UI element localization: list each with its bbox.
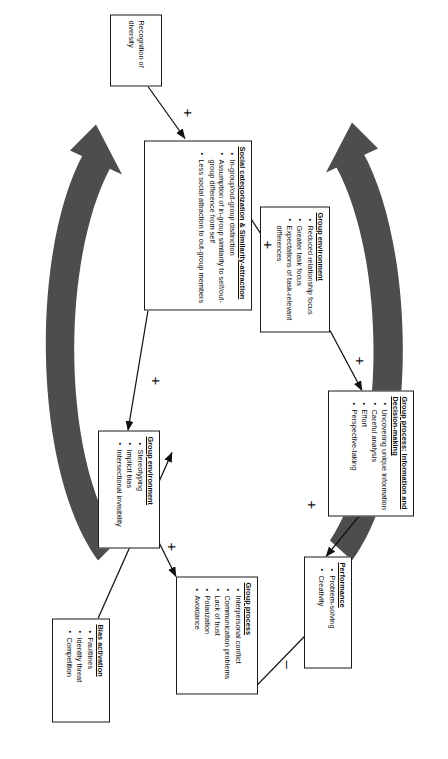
node-title: Group process [244, 582, 253, 688]
sign-socialcat-to-groupenv-negative: + [149, 376, 164, 385]
node-recognition-of-diversity[interactable]: Recognition of diversity [110, 14, 162, 86]
list-item: Competition [64, 632, 74, 716]
list-item: Creativity [317, 570, 327, 662]
list-item: Careful analysis [369, 404, 379, 510]
node-item-list: Reduced relationship focus Greater task … [275, 212, 315, 326]
sign-recognition-to-socialcat: + [181, 108, 196, 117]
node-title: Group environment [146, 436, 155, 542]
diagram-page: Recognition of diversity Social categori… [0, 0, 448, 759]
list-item: Polarization [202, 590, 212, 688]
list-item: Reduced relationship focus [305, 220, 315, 326]
node-social-categorization[interactable]: Social categorization & Similarity-attra… [144, 140, 252, 310]
node-group-environment-positive[interactable]: Group environment Reduced relationship f… [260, 206, 330, 332]
list-item: Interpersonal conflict [233, 590, 243, 688]
node-group-environment-negative[interactable]: Group environment Stereotyping Implicit … [98, 430, 160, 548]
node-bias-activation[interactable]: Bias activation Faultlines Identity thre… [52, 618, 110, 722]
list-item: Expectations of task-relevant difference… [275, 220, 295, 326]
node-item-list: Interpersonal conflict Communication pro… [192, 582, 243, 688]
sign-groupenv-negative-to-process: + [165, 542, 180, 551]
list-item: Communication problems [223, 590, 233, 688]
node-title: Group process: Information and Decision-… [391, 396, 410, 510]
list-item: Implicit bias [125, 444, 135, 542]
node-title: Social categorization & Similarity-attra… [238, 146, 247, 304]
node-title: Performance [338, 562, 347, 662]
sign-process-info-to-performance: + [305, 500, 320, 509]
list-item: Effort [359, 404, 369, 510]
list-item: Faultlines [85, 632, 95, 716]
list-item: In-group/out-group distinction [227, 154, 237, 304]
node-item-list: Uncovering unique information Careful an… [349, 396, 390, 510]
list-item: Stereotyping [135, 444, 145, 542]
node-title: Recognition of diversity [127, 20, 146, 80]
sign-socialcat-to-groupenv-positive: + [261, 240, 276, 249]
node-group-process-negative[interactable]: Group process Interpersonal conflict Com… [176, 576, 258, 694]
list-item: Avoidance [192, 590, 202, 688]
node-title: Bias activation [96, 624, 105, 716]
connector-socialcat-to-groupenv-negative [128, 310, 148, 430]
node-item-list: Faultlines Identity threat Competition [64, 624, 94, 716]
sign-groupenv-positive-to-process: + [353, 356, 368, 365]
list-item: Intersectional invisibility [114, 444, 124, 542]
list-item: Perspective-taking [349, 404, 359, 510]
list-item: Less social attraction to out-group memb… [197, 154, 207, 304]
list-item: Greater task focus [295, 220, 305, 326]
list-item: Lack of trust [212, 590, 222, 688]
node-item-list: Stereotyping Implicit bias Intersectiona… [114, 436, 144, 542]
sign-process-negative-to-performance: – [281, 660, 296, 668]
node-title: Group environment [316, 212, 325, 326]
node-performance[interactable]: Performance Problem-solving Creativity [304, 556, 352, 668]
diagram-canvas: Recognition of diversity Social categori… [0, 0, 448, 759]
list-item: Identity threat [75, 632, 85, 716]
node-group-process-information[interactable]: Group process: Information and Decision-… [328, 390, 414, 516]
node-item-list: In-group/out-group distinction Assumptio… [197, 146, 237, 304]
list-item: Assumption of in-group similarity to sel… [207, 154, 227, 304]
list-item: Problem-solving [327, 570, 337, 662]
node-item-list: Problem-solving Creativity [317, 562, 337, 662]
list-item: Uncovering unique information [380, 404, 390, 510]
